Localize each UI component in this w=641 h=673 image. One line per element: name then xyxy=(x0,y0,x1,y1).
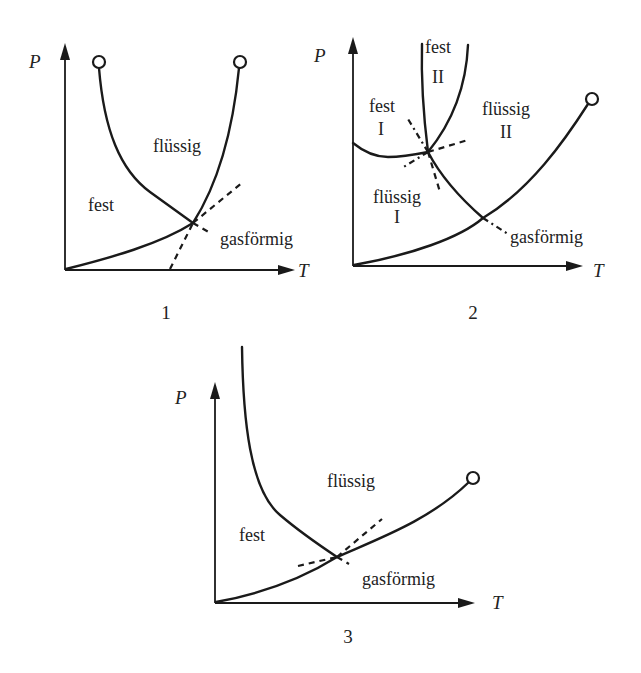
critical-point-icon xyxy=(93,56,105,68)
solid1-solid2-curve xyxy=(422,44,428,152)
diagram-2: P T fest II fest I flüssig II flüssig I … xyxy=(313,37,605,323)
diagram-number: 3 xyxy=(343,626,353,647)
diagram-3: P T flüssig fest gasförmig 3 xyxy=(174,347,504,647)
region-liquid1-numeral: I xyxy=(394,207,400,227)
sublimation-curve xyxy=(66,223,193,269)
region-gas-label: gasförmig xyxy=(220,229,293,249)
region-solid1-label: fest xyxy=(369,96,395,116)
diagram-number: 2 xyxy=(468,302,478,323)
dashed-extension xyxy=(193,223,212,234)
x-axis-label: T xyxy=(298,260,310,281)
y-axis-arrow-icon xyxy=(348,37,358,54)
solid1-liquid1-curve xyxy=(353,143,428,157)
region-liquid1-label: flüssig xyxy=(373,187,421,207)
y-axis-arrow-icon xyxy=(210,382,220,399)
phase-diagrams-figure: P T flüssig fest gasförmig 1 P T fes xyxy=(0,0,641,673)
region-liquid-label: flüssig xyxy=(327,471,375,491)
x-axis-arrow-icon xyxy=(458,598,475,608)
region-liquid-label: flüssig xyxy=(153,136,201,156)
dashed-extension xyxy=(483,218,508,234)
diagram-number: 1 xyxy=(161,302,171,323)
region-solid-label: fest xyxy=(88,195,114,215)
dashed-extension xyxy=(193,182,243,223)
region-gas-label: gasförmig xyxy=(362,569,435,589)
critical-point-icon xyxy=(586,93,598,105)
region-gas-label: gasförmig xyxy=(510,227,583,247)
region-solid1-numeral: I xyxy=(378,119,384,139)
x-axis-arrow-icon xyxy=(278,265,295,275)
region-solid-label: fest xyxy=(239,525,265,545)
region-solid2-numeral: II xyxy=(432,67,444,87)
dashed-extension xyxy=(337,519,382,557)
dashed-extension xyxy=(428,152,440,192)
x-axis-label: T xyxy=(492,592,504,613)
y-axis-label: P xyxy=(28,51,41,72)
dashed-extension xyxy=(337,557,349,564)
region-liquid2-numeral: II xyxy=(500,122,512,142)
x-axis-arrow-icon xyxy=(566,261,583,271)
y-axis-arrow-icon xyxy=(60,43,70,60)
y-axis-label: P xyxy=(313,45,326,66)
x-axis-label: T xyxy=(593,260,605,281)
solid2-liquid2-curve xyxy=(428,45,468,152)
region-solid2-label: fest xyxy=(425,37,451,57)
liquid1-liquid2-curve xyxy=(428,152,483,218)
critical-point-icon xyxy=(467,472,479,484)
y-axis-label: P xyxy=(174,387,187,408)
critical-point-icon xyxy=(234,56,246,68)
region-liquid2-label: flüssig xyxy=(482,99,530,119)
diagram-1: P T flüssig fest gasförmig 1 xyxy=(28,43,310,323)
